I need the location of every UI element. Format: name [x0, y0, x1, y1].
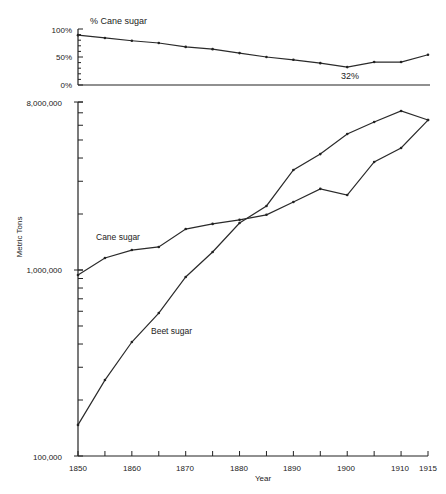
data-point [157, 246, 160, 249]
y-tick-8m: 8,000,000 [26, 99, 62, 108]
data-point [373, 161, 376, 164]
x-tick-1870: 1870 [176, 464, 194, 473]
data-point [346, 133, 349, 136]
data-point [265, 205, 268, 208]
data-point [427, 119, 430, 122]
top-tick-100: 100% [52, 26, 72, 35]
cane-sugar-line [78, 120, 428, 275]
x-tick-1860: 1860 [123, 464, 141, 473]
data-point [265, 56, 268, 59]
data-point [400, 110, 403, 113]
data-point [238, 219, 241, 222]
data-point [77, 34, 80, 37]
data-point [319, 62, 322, 65]
data-point [104, 257, 107, 260]
data-points [77, 110, 430, 426]
x-tick-1880: 1880 [230, 464, 248, 473]
x-tick-1900: 1900 [337, 464, 355, 473]
x-tick-labels: 1850 1860 1870 1880 1890 1900 1910 1915 [69, 464, 437, 473]
data-point [131, 249, 134, 252]
y-tick-100k: 100,000 [33, 453, 62, 462]
top-panel: % Cane sugar 100% 50% 0% 32% [52, 16, 430, 90]
data-point [184, 46, 187, 49]
data-point [346, 194, 349, 197]
data-point [292, 59, 295, 62]
data-point [211, 223, 214, 226]
beet-sugar-label: Beet sugar [151, 326, 192, 336]
beet-sugar-line [78, 111, 428, 425]
data-point [238, 52, 241, 55]
top-tick-50: 50% [56, 53, 72, 62]
data-point [427, 53, 430, 56]
data-point [211, 48, 214, 51]
bottom-panel: 8,000,000 1,000,000 100,000 Metric Tons … [15, 99, 437, 483]
data-point [211, 251, 214, 254]
top-tick-0: 0% [60, 81, 72, 90]
data-point [292, 201, 295, 204]
cane-sugar-label: Cane sugar [96, 232, 140, 242]
data-point [77, 274, 80, 277]
data-point [373, 61, 376, 64]
cane-share-line [78, 35, 428, 67]
data-point [157, 312, 160, 315]
data-point [346, 66, 349, 69]
sugar-production-chart: % Cane sugar 100% 50% 0% 32% 8,000,000 1… [0, 0, 446, 494]
min-share-annotation: 32% [341, 71, 359, 81]
top-title: % Cane sugar [90, 16, 147, 26]
data-point [104, 37, 107, 40]
data-point [292, 169, 295, 172]
data-point [400, 61, 403, 64]
cane-share-points [77, 34, 430, 69]
data-point [400, 147, 403, 150]
x-tick-1890: 1890 [283, 464, 301, 473]
y-axis-label: Metric Tons [15, 217, 24, 258]
x-tick-1910: 1910 [391, 464, 409, 473]
data-point [131, 39, 134, 42]
x-tick-1850: 1850 [69, 464, 87, 473]
data-point [238, 222, 241, 225]
x-tick-1915: 1915 [419, 464, 437, 473]
data-point [157, 42, 160, 45]
x-axis-label: Year [255, 474, 272, 483]
data-point [319, 153, 322, 156]
data-point [373, 121, 376, 124]
data-point [265, 214, 268, 217]
data-point [131, 341, 134, 344]
y-tick-1m: 1,000,000 [26, 266, 62, 275]
data-point [184, 228, 187, 231]
top-y-ticks [78, 29, 83, 85]
data-point [77, 424, 80, 427]
data-point [104, 379, 107, 382]
data-point [184, 276, 187, 279]
bottom-x-ticks [78, 451, 428, 456]
data-point [319, 188, 322, 191]
